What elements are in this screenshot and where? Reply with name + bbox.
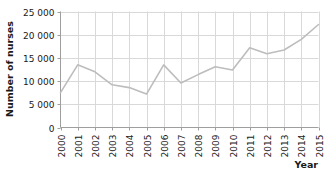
x-axis-title: Year — [293, 159, 318, 170]
x-tick-label: 2002 — [91, 135, 101, 158]
x-tick-label: 2006 — [160, 134, 170, 157]
y-tick-label: 20 000 — [23, 31, 55, 41]
line-chart-figure: 05 00010 00015 00020 00025 000 200020012… — [0, 0, 326, 172]
x-tick-label: 2009 — [211, 134, 221, 157]
x-tick-label: 2015 — [315, 135, 325, 158]
y-tick-label: 10 000 — [23, 77, 55, 87]
x-tick-label: 2007 — [177, 135, 187, 158]
y-axis-title: Number of nurses — [4, 21, 15, 117]
x-tick-label: 2008 — [194, 134, 204, 157]
y-tick-label: 25 000 — [23, 8, 55, 18]
x-tick-label: 2011 — [246, 135, 256, 158]
x-tick-label: 2000 — [57, 134, 67, 157]
x-tick-label: 2014 — [297, 134, 307, 157]
chart-canvas: 05 00010 00015 00020 00025 000 200020012… — [0, 0, 326, 172]
x-tick-label: 2013 — [280, 135, 290, 158]
x-tick-label: 2001 — [74, 135, 84, 158]
x-tick-label: 2010 — [229, 134, 239, 157]
x-tick-label: 2004 — [125, 134, 135, 157]
y-tick-label: 0 — [49, 124, 55, 134]
x-tick-label: 2005 — [143, 135, 153, 158]
y-tick-label: 5 000 — [29, 100, 55, 110]
x-tick-label: 2003 — [108, 135, 118, 158]
x-tick-label: 2012 — [263, 135, 273, 158]
y-tick-label: 15 000 — [23, 54, 55, 64]
